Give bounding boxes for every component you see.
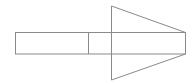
arrow-shaft-rectangle — [16, 33, 186, 55]
arrowhead-trapezoid — [112, 6, 186, 80]
arrow-diagram — [0, 0, 193, 84]
